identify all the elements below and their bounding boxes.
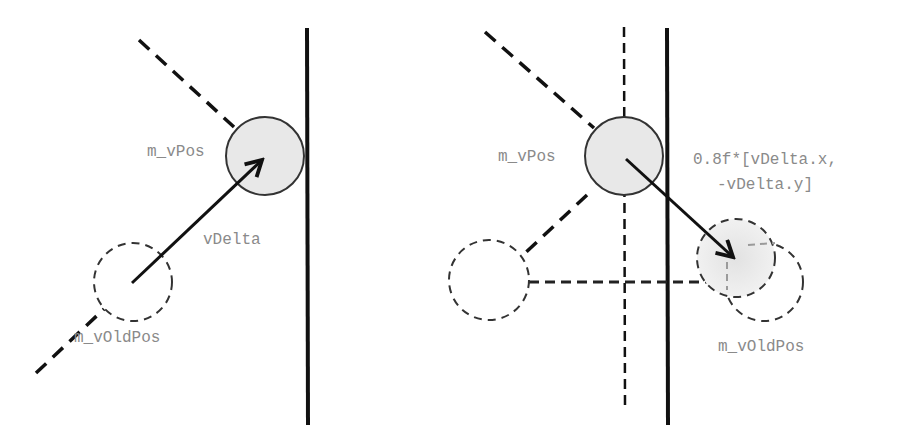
right-reflect-arrow — [626, 159, 733, 257]
left-delta-label: vDelta — [203, 231, 261, 249]
right-panel — [449, 27, 803, 425]
right-wall — [667, 28, 668, 425]
right-dashed-vertical — [624, 27, 625, 405]
left-old-pos-label: m_vOldPos — [74, 329, 160, 347]
right-formula-line2: -vDelta.y] — [717, 176, 813, 194]
diagram-canvas — [0, 0, 899, 447]
left-delta-arrow — [132, 160, 262, 283]
right-old-pos-label: m_vOldPos — [718, 338, 804, 356]
left-wall — [307, 28, 308, 425]
left-pos-label: m_vPos — [147, 143, 205, 161]
left-trajectory-upper — [139, 40, 234, 127]
right-formula-line1: 0.8f*[vDelta.x, — [693, 151, 837, 169]
right-trajectory-upper — [485, 32, 594, 128]
right-old-pos-circle — [449, 240, 529, 320]
right-trajectory-lower — [522, 195, 587, 256]
right-new-pos-circle — [697, 219, 775, 297]
right-pos-label: m_vPos — [498, 148, 556, 166]
left-panel — [36, 28, 308, 425]
